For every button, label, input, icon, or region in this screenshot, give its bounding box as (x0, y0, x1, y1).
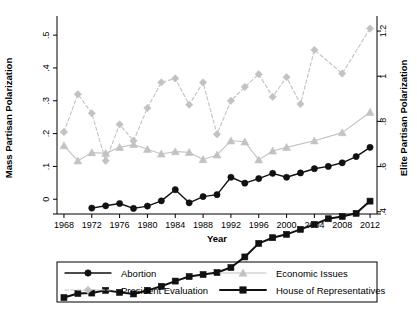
right-tick-label: .8 (378, 118, 388, 126)
data-point-square (172, 278, 178, 284)
data-point-square (297, 226, 303, 232)
data-point-diamond (366, 25, 373, 32)
series-group (60, 25, 374, 301)
legend-label-president-evaluation: President Evaluation (121, 285, 208, 296)
data-point-circle (270, 170, 276, 176)
right-tick-label: .6 (378, 163, 388, 171)
data-point-triangle (366, 108, 374, 115)
polarization-line-chart: 0.1.2.3.4.5.4.6.811.21968197219761980198… (0, 0, 417, 311)
data-point-circle (89, 205, 95, 211)
legend-label-house-of-representatives: House of Representatives (276, 285, 386, 296)
data-point-circle (242, 180, 248, 186)
left-axis-ticks: 0.1.2.3.4.5 (41, 31, 57, 201)
x-tick-label: 2008 (332, 220, 352, 230)
x-tick-label: 1980 (137, 220, 157, 230)
data-point-square (61, 295, 67, 301)
data-point-diamond (172, 75, 179, 82)
chart-legend: AbortionEconomic IssuesPresident Evaluat… (57, 262, 386, 302)
data-point-triangle (227, 137, 235, 144)
data-point-diamond (297, 100, 304, 107)
data-point-diamond (283, 73, 290, 80)
data-point-diamond (144, 104, 151, 111)
chart-figure: 0.1.2.3.4.5.4.6.811.21968197219761980198… (0, 0, 417, 311)
left-tick-label: .4 (41, 64, 51, 72)
legend-label-economic-issues: Economic Issues (276, 268, 348, 279)
right-tick-label: 1 (378, 74, 388, 79)
data-point-circle (339, 160, 345, 166)
data-point-diamond (185, 101, 192, 108)
data-point-circle (297, 170, 303, 176)
data-point-square (242, 254, 248, 260)
data-point-circle (228, 174, 234, 180)
data-point-square (284, 231, 290, 237)
data-point-diamond (102, 157, 109, 164)
data-point-circle (130, 205, 136, 211)
data-point-square (339, 213, 345, 219)
data-point-square (75, 291, 81, 297)
y-axis-title: Mass Partisan Polarization (3, 58, 14, 179)
data-point-circle (283, 174, 289, 180)
series-line (64, 201, 370, 297)
legend-item-abortion[interactable]: Abortion (65, 268, 156, 279)
data-point-square (367, 198, 373, 204)
legend-label-abortion: Abortion (121, 268, 156, 279)
data-point-triangle (60, 142, 68, 149)
data-point-square (200, 272, 206, 278)
data-point-diamond (199, 79, 206, 86)
data-point-triangle (338, 129, 346, 136)
right-axis-ticks: .4.6.811.2 (377, 25, 388, 216)
series-line (64, 29, 370, 161)
left-tick-label: .3 (41, 97, 51, 105)
left-tick-label: .2 (41, 130, 51, 138)
data-point-square (214, 270, 220, 276)
x-tick-label: 2012 (360, 220, 380, 230)
x-tick-label: 1996 (249, 220, 269, 230)
data-point-diamond (158, 79, 165, 86)
right-tick-label: .4 (378, 208, 388, 216)
data-point-circle (214, 192, 220, 198)
data-point-square (240, 287, 246, 293)
left-tick-label: .1 (41, 163, 51, 171)
x-tick-label: 1972 (82, 220, 102, 230)
data-point-square (228, 265, 234, 271)
series-president-evaluation (60, 25, 373, 165)
data-point-circle (103, 203, 109, 209)
legend-item-house-of-representatives[interactable]: House of Representatives (220, 285, 386, 296)
left-tick-label: .5 (41, 31, 51, 39)
data-point-diamond (88, 110, 95, 117)
x-tick-label: 1968 (54, 220, 74, 230)
data-point-diamond (74, 91, 81, 98)
data-point-square (311, 221, 317, 227)
data-point-circle (144, 203, 150, 209)
data-point-square (186, 274, 192, 280)
x-axis-title: Year (207, 233, 227, 244)
data-point-circle (200, 194, 206, 200)
data-point-circle (186, 200, 192, 206)
data-point-circle (117, 200, 123, 206)
data-point-circle (172, 187, 178, 193)
right-tick-label: 1.2 (378, 25, 388, 38)
legend-item-economic-issues[interactable]: Economic Issues (220, 268, 348, 279)
data-point-circle (311, 166, 317, 172)
data-point-square (270, 235, 276, 241)
data-point-circle (325, 163, 331, 169)
x-tick-label: 1984 (165, 220, 185, 230)
data-point-circle (367, 144, 373, 150)
plot-area: 0.1.2.3.4.5.4.6.811.21968197219761980198… (41, 16, 388, 301)
data-point-diamond (213, 131, 220, 138)
y2-axis-title: Elite Partisan Polarization (398, 59, 409, 176)
data-point-circle (85, 270, 91, 276)
data-point-diamond (269, 93, 276, 100)
x-tick-label: 2000 (277, 220, 297, 230)
x-tick-label: 1988 (193, 220, 213, 230)
data-point-circle (158, 198, 164, 204)
data-point-diamond (60, 128, 67, 135)
series-abortion (89, 144, 373, 211)
x-tick-label: 1976 (110, 220, 130, 230)
left-tick-label: 0 (41, 197, 51, 202)
data-point-square (353, 210, 359, 216)
data-point-circle (256, 175, 262, 181)
data-point-square (256, 240, 262, 246)
x-tick-label: 1992 (221, 220, 241, 230)
data-point-circle (353, 153, 359, 159)
